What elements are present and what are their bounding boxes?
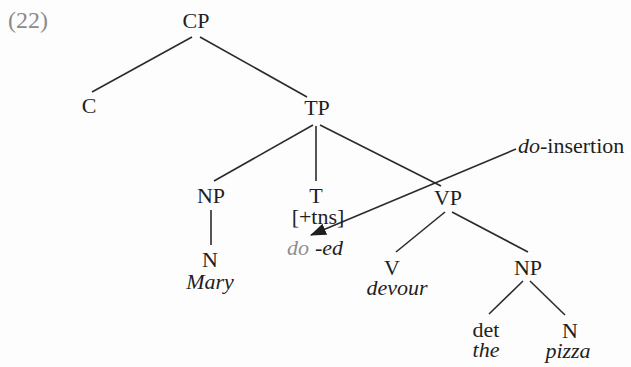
edge-vp-np	[452, 212, 528, 252]
node-n-subject: N	[202, 249, 218, 271]
edge-cp-tp	[200, 37, 307, 97]
edge-cp-c	[92, 37, 192, 92]
inserted-do-word: do	[287, 237, 309, 259]
object-word: pizza	[545, 340, 590, 362]
syntax-tree-figure: (22) CP C TP NP T [+tns] do -ed N Mary V…	[0, 0, 631, 367]
tense-affix-word: -ed	[315, 237, 343, 259]
t-terminal-do-ed: do -ed	[287, 237, 343, 259]
annotation-do-italic: do	[518, 135, 540, 157]
det-word: the	[473, 339, 500, 361]
node-tp: TP	[304, 97, 330, 119]
node-c: C	[82, 95, 97, 117]
subject-word: Mary	[186, 271, 234, 293]
example-number: (22)	[8, 8, 48, 32]
t-feature-tns: [+tns]	[292, 206, 345, 228]
edge-tp-np	[214, 125, 313, 181]
node-vp: VP	[434, 187, 462, 209]
edge-tp-vp	[320, 125, 441, 186]
edge-np-det	[489, 281, 523, 314]
edge-vp-v	[396, 212, 445, 252]
node-cp: CP	[183, 10, 210, 32]
node-np-subject: NP	[197, 185, 225, 207]
node-np-object: NP	[514, 257, 542, 279]
verb-word: devour	[366, 277, 427, 299]
edge-np-n2	[530, 281, 565, 315]
annotation-insertion-text: -insertion	[540, 135, 624, 157]
do-insertion-annotation: do -insertion	[518, 135, 624, 157]
